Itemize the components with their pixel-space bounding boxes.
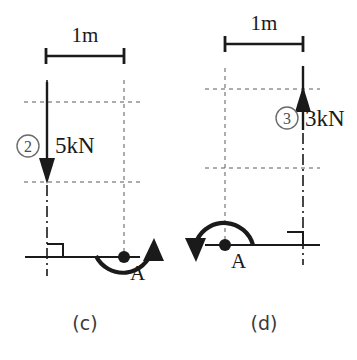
load-number-badge-d: 3 [276, 107, 298, 129]
load-number-text-c: 2 [24, 138, 32, 155]
moment-arrowhead-d [185, 238, 206, 262]
node-label-c: A [130, 261, 146, 285]
panel-d: 1m 3 3kN [185, 11, 345, 334]
moment-arrowhead-c [143, 238, 164, 261]
panel-caption-c: (c) [72, 312, 97, 334]
dimension-label-c: 1m [72, 23, 99, 47]
figure-root: 1m 2 5kN [0, 0, 357, 360]
node-dot-c [118, 251, 130, 263]
node-dot-d [219, 239, 231, 251]
force-arrow-down-c [39, 82, 55, 184]
dimension-label-d: 1m [251, 11, 278, 35]
panel-c: 1m 2 5kN [17, 23, 164, 334]
node-label-d: A [231, 249, 247, 273]
dimension-line-c [46, 48, 124, 64]
dimension-line-d [225, 36, 303, 52]
force-arrowhead-c [39, 158, 55, 184]
load-magnitude-label-c: 5kN [55, 133, 95, 158]
panel-caption-d: (d) [251, 312, 278, 334]
engineering-diagram-canvas: 1m 2 5kN [0, 0, 357, 360]
right-angle-support-d [287, 232, 303, 245]
load-magnitude-label-d: 3kN [305, 106, 345, 131]
right-angle-support-c [47, 244, 63, 257]
construction-grid-c [24, 80, 140, 262]
load-number-badge-c: 2 [17, 135, 39, 157]
load-number-text-d: 3 [283, 110, 291, 127]
